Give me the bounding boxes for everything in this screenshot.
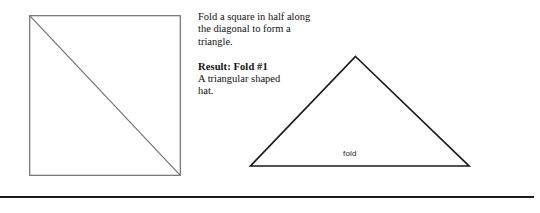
- step-instruction-text: Fold a square in half along the diagonal…: [198, 11, 348, 48]
- diagram-canvas: Fold a square in half along the diagonal…: [0, 0, 540, 213]
- bottom-divider-rule: [0, 196, 534, 198]
- triangle-outline: [251, 57, 470, 167]
- square-figure: [29, 15, 181, 176]
- triangle-figure: [242, 50, 478, 175]
- triangle-base-fold-label: fold: [343, 149, 357, 158]
